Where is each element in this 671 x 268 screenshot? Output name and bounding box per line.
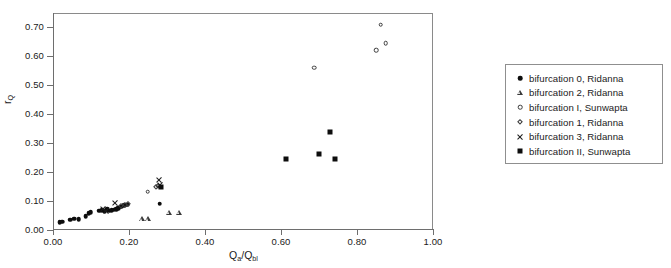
plot-frame: [53, 13, 433, 230]
legend-item[interactable]: bifurcation I, Sunwapta: [513, 100, 658, 115]
legend-marker-cross-icon: [513, 129, 529, 144]
y-tick-label: 0.20: [8, 166, 44, 177]
legend-marker-glyph: [518, 105, 523, 110]
x-axis-line: [53, 229, 434, 230]
legend-item-label: bifurcation 2, Ridanna: [529, 87, 623, 98]
legend-items: bifurcation 0, Ridannabifurcation 2, Rid…: [513, 71, 658, 159]
y-tick-label: 0.30: [8, 137, 44, 148]
legend-marker-glyph: [517, 119, 523, 125]
y-axis-line: [53, 13, 54, 230]
data-point: [176, 210, 182, 215]
x-tick-label: 0.80: [337, 236, 377, 247]
legend-item-label: bifurcation 3, Ridanna: [529, 131, 623, 142]
data-point: [156, 182, 163, 189]
x-tick-mark: [281, 230, 282, 235]
legend-marker-open-triangle-icon: [513, 86, 529, 101]
legend-marker-glyph: [518, 76, 523, 81]
legend-marker-glyph: [518, 149, 523, 154]
y-tick-mark: [47, 114, 53, 115]
y-tick-label: 0.00: [8, 224, 44, 235]
legend-item-label: bifurcation 0, Ridanna: [529, 73, 623, 84]
y-tick-label: 0.50: [8, 79, 44, 90]
legend-marker-filled-circle-icon: [513, 71, 529, 86]
legend-item-label: bifurcation II, Sunwapta: [529, 146, 630, 157]
legend-item[interactable]: bifurcation 3, Ridanna: [513, 129, 658, 144]
legend-item[interactable]: bifurcation II, Sunwapta: [513, 144, 658, 159]
y-tick-label: 0.70: [8, 21, 44, 32]
x-tick-mark: [357, 230, 358, 235]
legend-item-label: bifurcation I, Sunwapta: [529, 102, 628, 113]
data-point: [139, 216, 145, 221]
scatter-plot-figure: 0.000.100.200.300.400.500.600.70 0.000.2…: [0, 0, 671, 268]
x-tick-mark: [129, 230, 130, 235]
y-tick-label: 0.60: [8, 50, 44, 61]
data-point: [111, 200, 118, 207]
legend-item[interactable]: bifurcation 0, Ridanna: [513, 71, 658, 86]
y-tick-mark: [47, 27, 53, 28]
legend-item-label: bifurcation 1, Ridanna: [529, 117, 623, 128]
x-tick-label: 0.20: [109, 236, 149, 247]
legend-item[interactable]: bifurcation 1, Ridanna: [513, 115, 658, 130]
y-axis-title: rQ: [1, 95, 15, 104]
x-tick-mark: [433, 230, 434, 235]
y-tick-mark: [47, 201, 53, 202]
y-tick-mark: [47, 143, 53, 144]
x-tick-label: 0.40: [185, 236, 225, 247]
y-axis-title-sub: Q: [7, 95, 15, 101]
y-tick-mark: [47, 56, 53, 57]
x-axis-title-sub-2: bl: [252, 255, 258, 263]
data-point: [145, 216, 151, 221]
y-tick-mark: [47, 172, 53, 173]
x-tick-label: 0.60: [261, 236, 301, 247]
legend-marker-open-circle-icon: [513, 100, 529, 115]
y-tick-label: 0.40: [8, 108, 44, 119]
legend-item[interactable]: bifurcation 2, Ridanna: [513, 86, 658, 101]
plot-area-wrapper: 0.000.100.200.300.400.500.600.70 0.000.2…: [0, 0, 470, 268]
legend-marker-filled-square-icon: [513, 144, 529, 159]
x-tick-mark: [205, 230, 206, 235]
data-point: [166, 210, 172, 215]
x-tick-label: 0.00: [33, 236, 73, 247]
x-tick-mark: [53, 230, 54, 235]
y-axis-title-base: r: [1, 101, 13, 105]
data-point: [103, 208, 110, 215]
y-tick-mark: [47, 85, 53, 86]
x-axis-title: Qa/Qbl: [53, 249, 434, 263]
y-tick-label: 0.10: [8, 195, 44, 206]
legend-box: bifurcation 0, Ridannabifurcation 2, Rid…: [505, 64, 663, 164]
legend-marker-open-diamond-icon: [513, 115, 529, 130]
legend-marker-glyph: [517, 133, 524, 140]
legend-marker-glyph: [517, 90, 523, 95]
x-tick-label: 1.00: [413, 236, 453, 247]
